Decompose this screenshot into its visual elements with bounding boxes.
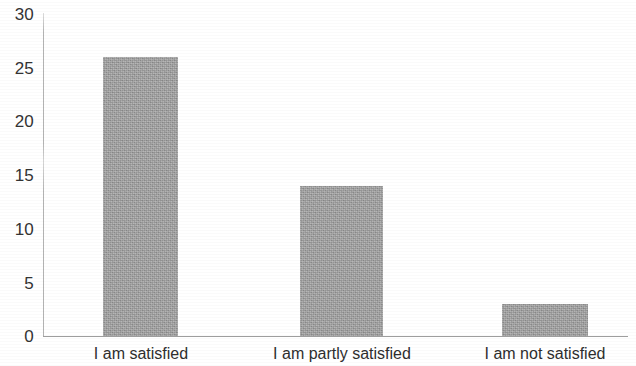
bar-i-am-partly-satisfied — [300, 186, 383, 336]
y-axis-tick-25: 25 — [0, 60, 34, 77]
y-axis-tick-5: 5 — [0, 275, 34, 292]
x-axis-line — [43, 336, 628, 337]
plot-area — [43, 14, 628, 336]
y-axis-tick-15: 15 — [0, 167, 34, 184]
x-axis-tick-i-am-satisfied: I am satisfied — [94, 344, 188, 364]
bar-i-am-satisfied — [103, 57, 178, 336]
bar-chart-figure: 30 25 20 15 10 5 0 I am satisfied I am p… — [0, 0, 636, 366]
x-axis-tick-i-am-partly-satisfied: I am partly satisfied — [273, 344, 411, 364]
bar-i-am-not-satisfied — [502, 304, 588, 336]
y-axis-tick-20: 20 — [0, 113, 34, 130]
x-axis-tick-labels: I am satisfied I am partly satisfied I a… — [0, 344, 636, 366]
x-axis-tick-i-am-not-satisfied: I am not satisfied — [485, 344, 606, 364]
y-axis-tick-0: 0 — [0, 328, 34, 345]
y-axis-tick-30: 30 — [0, 6, 34, 23]
y-axis-tick-labels: 30 25 20 15 10 5 0 — [0, 0, 36, 366]
y-axis-tick-10: 10 — [0, 221, 34, 238]
